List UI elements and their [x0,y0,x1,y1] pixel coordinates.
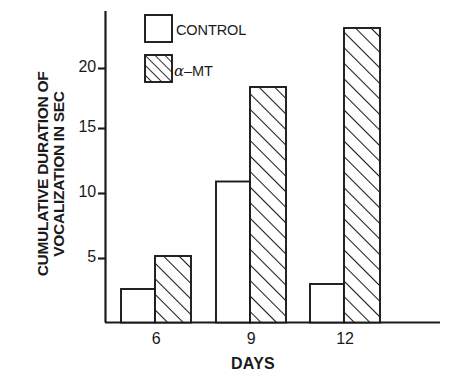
legend-swatch-alpha-mt [145,55,172,82]
bar-alpha-mt-day-6 [155,256,191,323]
bar-alpha-mt-day-9 [250,87,286,323]
bar-control-day-6 [121,289,155,323]
plot-area [0,0,455,383]
bar-alpha-mt-day-12 [344,28,380,323]
bar-control-day-9 [216,182,250,323]
bar-control-day-12 [310,284,344,323]
bar-chart-figure: CUMULATIVE DURATION OF VOCALIZATION IN S… [0,0,455,383]
legend-swatch-control [145,15,172,42]
